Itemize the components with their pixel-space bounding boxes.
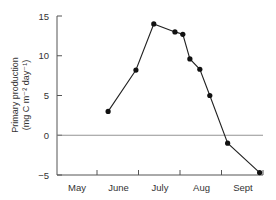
data-point [133,67,138,72]
y-tick-label: −5 [38,170,49,181]
x-tick-label: May [68,182,86,193]
data-point [180,32,185,37]
data-point [187,56,192,61]
primary-production-chart: 151050−5 MayJuneJulyAugSept Primary prod… [0,0,276,200]
x-tick-label: Aug [193,182,210,193]
x-tick-label: July [152,182,169,193]
y-axis-title-units: (mg C m⁻² day⁻¹) [21,60,31,131]
data-point [197,67,202,72]
y-tick-label: 10 [38,50,49,61]
y-axis: 151050−5 [38,11,62,181]
series-line [108,24,259,173]
data-point [151,21,156,26]
data-point [106,109,111,114]
data-markers [106,21,263,175]
data-point [257,170,262,175]
data-point [207,93,212,98]
y-tick-label: 5 [44,90,49,101]
data-point [172,29,177,34]
x-tick-label: Sept [233,182,253,193]
data-point [225,141,230,146]
y-tick-label: 15 [38,11,49,22]
y-axis-title-line1: Primary production [10,57,20,133]
y-tick-label: 0 [44,130,49,141]
y-axis-title: Primary production (mg C m⁻² day⁻¹) [10,57,31,133]
x-axis: MayJuneJulyAugSept [57,170,263,193]
x-tick-label: June [108,182,129,193]
